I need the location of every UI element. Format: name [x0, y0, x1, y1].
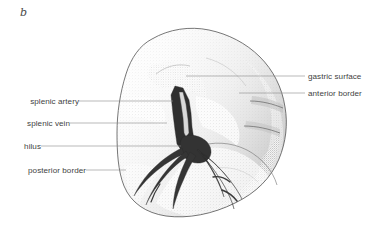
- figure-panel-b: b: [0, 0, 389, 248]
- label-gastric-surface: gastric surface: [308, 72, 361, 82]
- label-posterior-border: posterior border: [16, 166, 86, 176]
- label-splenic-artery: splenic artery: [16, 97, 79, 107]
- label-anterior-border: anterior border: [308, 89, 362, 99]
- label-hilus: hilus: [16, 142, 41, 152]
- label-splenic-vein: splenic vein: [16, 119, 70, 129]
